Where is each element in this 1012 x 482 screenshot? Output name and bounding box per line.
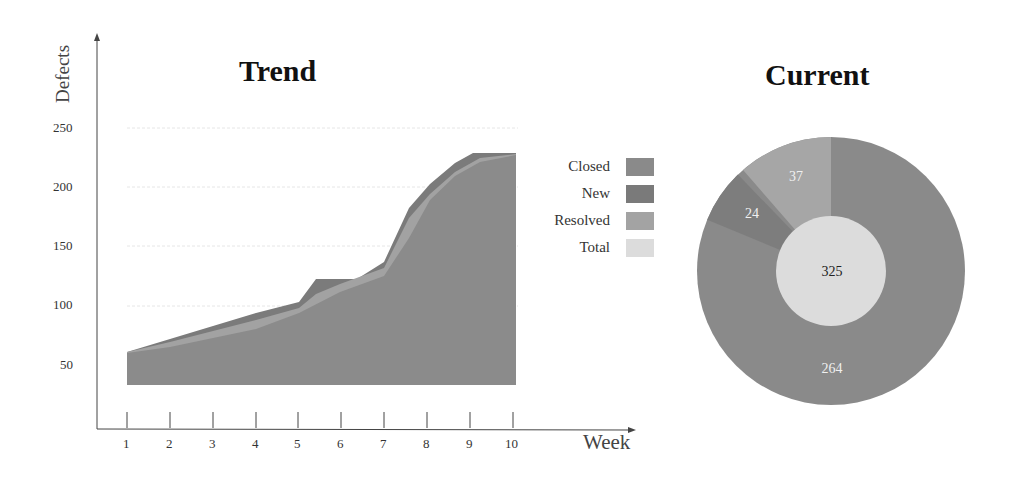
x-tick-1: 1 bbox=[123, 436, 130, 452]
x-tick-3: 3 bbox=[209, 436, 216, 452]
x-axis bbox=[97, 429, 630, 430]
x-tick-9: 9 bbox=[466, 436, 473, 452]
x-tick-5: 5 bbox=[294, 436, 301, 452]
legend-item-total: Total bbox=[520, 234, 654, 261]
y-tick-50: 50 bbox=[60, 357, 73, 373]
slice-label-closed: 264 bbox=[822, 361, 843, 377]
area-closed bbox=[127, 155, 516, 385]
y-axis-arrow-icon bbox=[94, 33, 100, 41]
x-tick-8: 8 bbox=[423, 436, 430, 452]
y-tick-250: 250 bbox=[53, 120, 73, 136]
x-axis-label: Week bbox=[583, 430, 630, 455]
legend-swatch-closed bbox=[626, 158, 654, 176]
legend: Closed New Resolved Total bbox=[520, 153, 654, 261]
x-tick-6: 6 bbox=[337, 436, 344, 452]
current-title: Current bbox=[765, 58, 869, 92]
x-ticks bbox=[127, 412, 513, 428]
x-tick-2: 2 bbox=[166, 436, 173, 452]
x-tick-4: 4 bbox=[252, 436, 259, 452]
y-tick-200: 200 bbox=[53, 179, 73, 195]
x-tick-7: 7 bbox=[380, 436, 387, 452]
x-tick-10: 10 bbox=[505, 436, 518, 452]
legend-swatch-resolved bbox=[626, 212, 654, 230]
slice-label-new: 24 bbox=[745, 206, 759, 222]
legend-item-resolved: Resolved bbox=[520, 207, 654, 234]
y-tick-100: 100 bbox=[53, 297, 73, 313]
y-tick-150: 150 bbox=[53, 238, 73, 254]
legend-item-new: New bbox=[520, 180, 654, 207]
legend-swatch-total bbox=[626, 239, 654, 257]
legend-item-closed: Closed bbox=[520, 153, 654, 180]
legend-swatch-new bbox=[626, 185, 654, 203]
slice-label-resolved: 37 bbox=[789, 169, 803, 185]
donut-total-label: 325 bbox=[822, 264, 843, 280]
